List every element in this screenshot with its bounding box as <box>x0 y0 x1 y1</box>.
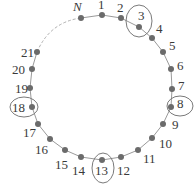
node-label-N: N <box>72 0 83 14</box>
node-label-8: 8 <box>177 96 184 111</box>
node-15 <box>62 147 68 153</box>
node-label-16: 16 <box>35 142 49 157</box>
node-11 <box>135 147 141 153</box>
node-label-11: 11 <box>143 151 156 166</box>
circular-node-diagram: N123456789101112131415161718192021 <box>0 0 196 189</box>
node-20 <box>29 66 35 72</box>
nodes <box>27 12 175 163</box>
node-label-6: 6 <box>177 58 184 73</box>
node-1 <box>99 12 105 18</box>
node-label-7: 7 <box>178 78 185 93</box>
node-label-14: 14 <box>72 163 86 178</box>
node-label-9: 9 <box>172 117 179 132</box>
node-labels: N123456789101112131415161718192021 <box>12 0 185 178</box>
node-3 <box>136 24 142 30</box>
node-label-1: 1 <box>98 0 105 12</box>
node-10 <box>149 135 155 141</box>
node-label-10: 10 <box>159 136 172 151</box>
node-label-13: 13 <box>95 163 108 178</box>
node-label-17: 17 <box>23 125 37 140</box>
node-7 <box>169 86 175 92</box>
node-label-15: 15 <box>55 157 68 172</box>
node-label-18: 18 <box>12 100 25 115</box>
node-label-4: 4 <box>156 21 163 36</box>
node-2 <box>118 15 124 21</box>
node-N <box>78 15 84 21</box>
node-5 <box>160 49 166 55</box>
node-label-12: 12 <box>117 163 130 178</box>
node-label-19: 19 <box>15 81 28 96</box>
node-label-5: 5 <box>169 38 176 53</box>
node-8 <box>168 104 174 110</box>
node-18 <box>29 104 35 110</box>
node-6 <box>168 66 174 72</box>
node-14 <box>78 154 84 160</box>
dashed-arc <box>37 18 81 52</box>
node-label-21: 21 <box>21 45 34 60</box>
node-label-20: 20 <box>12 62 25 77</box>
node-12 <box>118 154 124 160</box>
node-4 <box>149 35 155 41</box>
node-label-3: 3 <box>138 8 145 23</box>
node-21 <box>34 49 40 55</box>
node-label-2: 2 <box>117 0 124 15</box>
node-9 <box>160 121 166 127</box>
